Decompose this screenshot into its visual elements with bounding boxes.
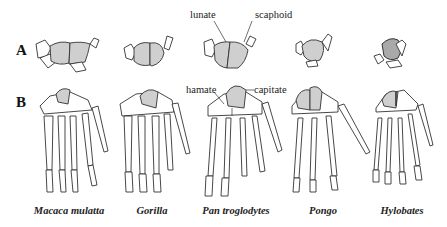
hand-pan [205, 86, 282, 196]
hand-pongo [292, 87, 370, 192]
hand-hylobates [373, 90, 433, 184]
carpal-hylobates [374, 39, 406, 68]
species-label-gorilla: Gorilla [137, 205, 168, 216]
species-label-hylobates: Hylobates [380, 205, 423, 216]
label-capitate: capitate [254, 84, 287, 95]
row-label-b: B [16, 94, 26, 111]
carpal-pongo [296, 34, 332, 67]
hand-macaca [40, 89, 108, 192]
illustration-canvas [0, 0, 447, 227]
species-label-pongo: Pongo [309, 205, 337, 216]
species-label-macaca: Macaca mulatta [34, 205, 104, 216]
lunate-leader [214, 21, 226, 42]
label-lunate: lunate [190, 9, 216, 20]
carpal-gorilla [124, 36, 173, 66]
wrist-comparison-figure: A B lunate scaphoid hamate capitate Maca… [0, 0, 447, 227]
carpal-pan [204, 36, 256, 68]
hand-gorilla [120, 90, 190, 192]
label-hamate: hamate [186, 84, 216, 95]
carpal-macaca [36, 38, 99, 72]
label-scaphoid: scaphoid [255, 9, 292, 20]
species-label-pan: Pan troglodytes [202, 205, 269, 216]
row-label-a: A [16, 42, 27, 59]
